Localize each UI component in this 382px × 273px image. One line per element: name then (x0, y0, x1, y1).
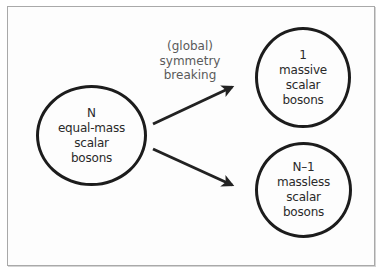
node-count: N–1 (292, 160, 314, 175)
node-text: bosons (282, 93, 323, 108)
node-n-equal-mass-bosons: N equal-mass scalar bosons (36, 85, 147, 186)
arrow-to-massive (153, 87, 232, 124)
node-text: bosons (283, 205, 324, 220)
node-massive-boson: 1 massive scalar bosons (255, 27, 351, 128)
node-text: scalar (286, 190, 321, 205)
node-text: scalar (286, 78, 321, 93)
node-text: equal-mass (58, 121, 125, 136)
node-text: massive (279, 63, 327, 78)
node-text: scalar (74, 136, 109, 151)
label-line: (global) (145, 39, 235, 54)
node-text: massless (277, 175, 330, 190)
node-count: 1 (299, 48, 306, 63)
symmetry-breaking-label: (global) symmetry breaking (145, 39, 235, 83)
label-line: breaking (145, 68, 235, 83)
node-text: bosons (71, 151, 112, 166)
node-massless-bosons: N–1 massless scalar bosons (255, 142, 352, 238)
arrow-to-massless (153, 149, 232, 185)
node-count: N (87, 106, 96, 121)
label-line: symmetry (145, 54, 235, 69)
